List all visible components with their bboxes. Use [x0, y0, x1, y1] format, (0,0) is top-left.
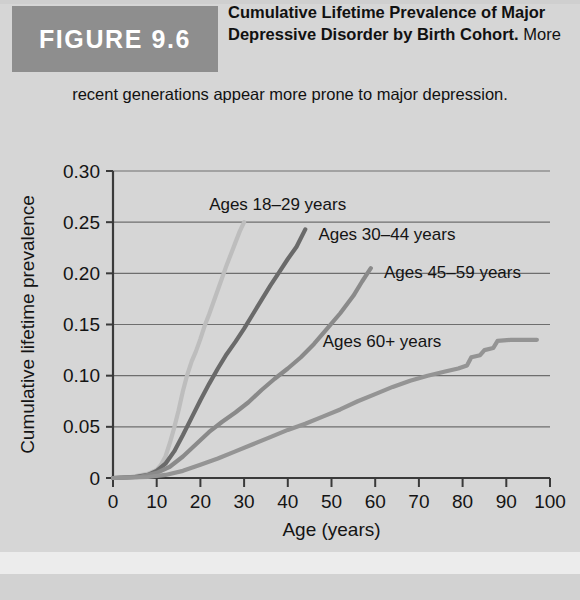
- x-tick-label: 100: [534, 491, 566, 512]
- x-tick-label: 90: [496, 491, 517, 512]
- y-tick-label: 0.05: [63, 416, 100, 437]
- chart-panel: 0102030405060708090100 00.050.100.150.20…: [0, 122, 580, 552]
- figure-caption-bold: Cumulative Lifetime Prevalence of Major …: [228, 3, 545, 43]
- figure-number-label: FIGURE 9.6: [39, 25, 191, 54]
- x-tick-label: 10: [146, 491, 167, 512]
- bottom-white-band: [0, 552, 580, 574]
- y-tick-label: 0: [89, 468, 100, 489]
- figure-page: FIGURE 9.6 Cumulative Lifetime Prevalenc…: [0, 0, 580, 600]
- series-line: [113, 229, 305, 478]
- y-tick-labels: 00.050.100.150.200.250.30: [63, 161, 100, 489]
- figure-caption-primary: Cumulative Lifetime Prevalence of Major …: [228, 2, 570, 46]
- x-tick-label: 60: [365, 491, 386, 512]
- x-tick-label: 80: [452, 491, 473, 512]
- x-tick-label: 0: [108, 491, 119, 512]
- series-line: [113, 340, 537, 478]
- series-label: Ages 18–29 years: [209, 195, 346, 214]
- series-label: Ages 30–44 years: [318, 225, 455, 244]
- x-tick-label: 70: [408, 491, 429, 512]
- y-tick-label: 0.25: [63, 212, 100, 233]
- y-tick-label: 0.20: [63, 263, 100, 284]
- y-tick-label: 0.30: [63, 161, 100, 182]
- x-tick-label: 30: [234, 491, 255, 512]
- x-tick-label: 20: [190, 491, 211, 512]
- series-label: Ages 45–59 years: [384, 263, 521, 282]
- y-tick-label: 0.10: [63, 365, 100, 386]
- figure-header: FIGURE 9.6 Cumulative Lifetime Prevalenc…: [0, 0, 580, 122]
- x-axis-title: Age (years): [282, 519, 380, 540]
- bottom-gray-band: [0, 574, 580, 600]
- x-tick-label: 50: [321, 491, 342, 512]
- x-tick-label: 40: [277, 491, 298, 512]
- x-tick-marks: [113, 478, 550, 487]
- y-axis-title: Cumulative lifetime prevalence: [17, 195, 38, 454]
- line-chart: 0102030405060708090100 00.050.100.150.20…: [0, 122, 580, 552]
- figure-number-badge: FIGURE 9.6: [12, 6, 218, 72]
- figure-caption-rest: More: [519, 25, 561, 43]
- x-tick-labels: 0102030405060708090100: [108, 491, 566, 512]
- y-tick-label: 0.15: [63, 314, 100, 335]
- figure-caption-secondary: recent generations appear more prone to …: [12, 84, 568, 105]
- series-label: Ages 60+ years: [323, 332, 442, 351]
- plot-area: 0102030405060708090100 00.050.100.150.20…: [0, 122, 580, 552]
